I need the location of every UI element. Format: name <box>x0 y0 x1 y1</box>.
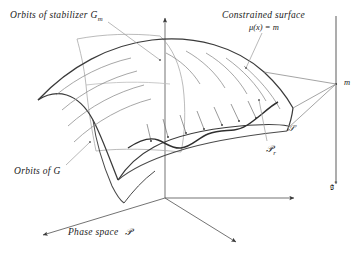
gm-orbit-curve <box>166 53 200 84</box>
surface-front-edge <box>118 131 287 180</box>
gm-orbit-curve <box>68 85 144 126</box>
label-dual-lie-algebra: 𝔤* <box>330 180 337 192</box>
diagram-canvas <box>0 0 362 253</box>
leader-orbits-of-g <box>66 142 90 165</box>
gm-orbit-curve <box>206 53 247 94</box>
label-orbits-of-stabilizer-text: Orbits of stabilizer G <box>10 10 98 20</box>
gm-orbit-curve <box>244 66 280 109</box>
label-phase-space-symbol: 𝒫 <box>125 226 132 237</box>
label-dual-lie-algebra-star: * <box>334 180 337 186</box>
orbit-tick <box>197 111 204 129</box>
constrained-surface <box>38 39 293 203</box>
label-orbits-of-stabilizer: Orbits of stabilizer Gm <box>10 10 103 22</box>
label-orbits-of-stabilizer-subscript: m <box>98 15 103 22</box>
leader-constrained-surface <box>246 33 262 68</box>
orbit-tick <box>248 101 256 118</box>
label-reduced-space-subscript: r <box>273 149 276 156</box>
surface-descending-sheet-right <box>124 171 155 203</box>
g-orbit-sheet-crease <box>86 82 170 85</box>
g-star-axis-group <box>335 16 337 184</box>
label-phase-space-text: Phase space <box>68 227 119 237</box>
gm-orbit-curve <box>74 99 151 142</box>
orbit-tick <box>231 104 239 121</box>
leader-reduced-space <box>259 100 267 141</box>
projection-line-top <box>293 84 336 108</box>
label-phase-space: Phase space 𝒫 <box>68 226 133 238</box>
label-slice-s: 𝒮 <box>288 123 295 134</box>
label-constrained-surface: Constrained surface <box>222 10 305 20</box>
gm-orbit-curve <box>186 51 225 88</box>
orbit-tick <box>214 107 222 125</box>
coordinate-axes <box>43 18 294 242</box>
front-right-axis <box>165 198 236 242</box>
label-reduced-space: 𝒫r <box>266 143 276 156</box>
leader-orbits-stabilizer <box>108 22 160 60</box>
label-orbits-of-g: Orbits of G <box>14 166 61 176</box>
g-orbit-sheet <box>77 34 185 152</box>
surface-descending-sheet <box>93 120 124 203</box>
projection-line-bottom <box>288 84 336 128</box>
label-constraint-equation: μ(x) = m <box>249 22 279 32</box>
gm-orbit-curve <box>226 58 266 101</box>
diagram-root: Orbits of stabilizer Gm Constrained surf… <box>0 0 362 253</box>
surface-lower-fold <box>118 125 288 181</box>
label-momentum-value: m <box>344 77 350 87</box>
gm-orbit-curves <box>56 51 280 142</box>
orbit-tick <box>163 119 168 137</box>
g-orbit-sheet-outline <box>77 34 185 152</box>
